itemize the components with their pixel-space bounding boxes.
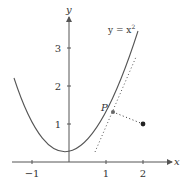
segment-P-to-point	[113, 112, 143, 124]
x-tick-label-1: 1	[103, 168, 109, 179]
x-tick-label-2: 2	[140, 168, 146, 179]
point-P-label: P	[100, 102, 108, 113]
y-axis-label: y	[65, 4, 72, 15]
point-P	[111, 110, 115, 114]
parabola-curve	[14, 31, 138, 152]
external-point	[141, 122, 146, 127]
function-label-lhs: y = x	[107, 25, 131, 35]
x-tick-label-neg1: −1	[25, 168, 40, 179]
y-tick-label-1: 1	[55, 119, 61, 130]
function-label: y = x2	[107, 23, 135, 35]
y-tick-label-3: 3	[55, 43, 61, 54]
parabola-diagram: −1 1 2 1 2 3 x y P y = x2	[0, 0, 184, 183]
y-tick-label-2: 2	[55, 81, 61, 92]
x-axis-label: x	[174, 156, 180, 167]
function-label-exponent: 2	[131, 23, 135, 30]
